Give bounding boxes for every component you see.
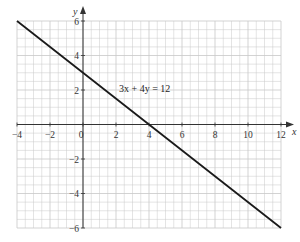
y-axis-arrow-icon	[80, 6, 86, 14]
x-tick-label: −4	[12, 130, 22, 140]
x-tick-label: 10	[243, 130, 253, 140]
x-tick-label: 12	[276, 130, 286, 140]
equation-label: 3x + 4y = 12	[119, 83, 170, 94]
y-tick-label: −6	[69, 224, 79, 234]
axes	[17, 6, 294, 228]
y-tick-label: 2	[74, 86, 79, 96]
x-tick-label: −2	[45, 130, 55, 140]
y-tick-label: 4	[74, 51, 79, 61]
x-tick-label: 6	[180, 130, 185, 140]
y-tick-label: 6	[74, 17, 79, 27]
y-axis-label: y	[72, 6, 78, 17]
y-tick-label: −4	[69, 189, 79, 199]
x-axis-label: x	[291, 126, 297, 137]
line-chart: −4−2024681012642−2−4−6 x y 3x + 4y = 12	[0, 0, 300, 242]
x-tick-label: 2	[114, 130, 119, 140]
x-tick-label: 0	[79, 130, 84, 140]
x-tick-label: 8	[213, 130, 218, 140]
x-tick-label: 4	[147, 130, 152, 140]
y-tick-label: −2	[69, 155, 79, 165]
